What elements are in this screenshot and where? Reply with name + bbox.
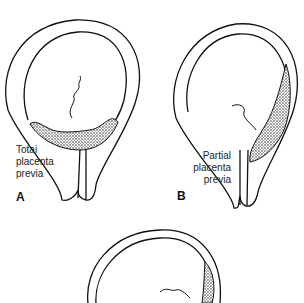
placenta-c: [202, 262, 214, 303]
caption-line: placenta: [183, 162, 231, 174]
caption-total-placenta-previa: Totai placenta previa: [16, 144, 54, 180]
caption-line: previa: [183, 174, 231, 186]
figure-letter-b: B: [177, 189, 186, 203]
caption-partial-placenta-previa: Partial placenta previa: [183, 150, 231, 186]
caption-line: previa: [16, 168, 54, 180]
figure-letter-a: A: [16, 190, 25, 204]
uterus-figure-c: [88, 230, 221, 303]
placenta-b: [250, 64, 291, 162]
caption-line: placenta: [16, 156, 54, 168]
caption-line: Partial: [183, 150, 231, 162]
caption-line: Totai: [16, 144, 54, 156]
